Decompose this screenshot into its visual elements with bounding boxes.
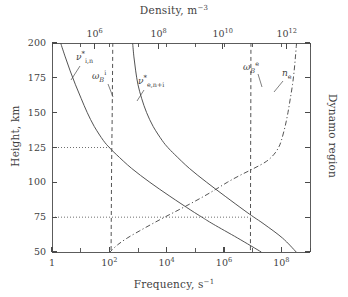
omega-B-i-label: ωBi	[92, 71, 106, 81]
guide-lines	[52, 148, 251, 218]
top-tick-label-3: 1012	[267, 28, 307, 39]
left-tick-label-6: 200	[0, 37, 46, 48]
left-tick-label-4: 150	[0, 107, 46, 118]
n-e-label: ne	[282, 68, 292, 78]
left-tick-label-3: 125	[0, 142, 46, 153]
left-tick-label-2: 100	[0, 176, 46, 187]
curve-nu_i_n	[61, 43, 262, 252]
bottom-tick-label-3: 106	[204, 257, 244, 268]
curve-omega_B_i	[111, 43, 113, 252]
plot-canvas	[0, 0, 348, 297]
left-tick-label-5: 175	[0, 72, 46, 83]
bottom-tick-label-1: 102	[89, 257, 129, 268]
top-tick-label-1: 108	[139, 28, 179, 39]
bottom-tick-label-2: 104	[147, 257, 187, 268]
axis-ticks	[52, 43, 310, 252]
top-tick-label-0: 106	[75, 28, 115, 39]
bottom-tick-label-0: 1	[32, 257, 72, 268]
left-tick-label-1: 75	[0, 211, 46, 222]
bottom-tick-label-4: 108	[261, 257, 301, 268]
nu-i-n-label: ν*i,n	[76, 52, 93, 62]
curve-n_e	[110, 43, 297, 252]
ionosphere-frequency-height-figure: Density, m−3 Frequency, s−1 Height, km D…	[0, 0, 348, 297]
nu-e-n-i-label: ν*e,n+i	[138, 76, 164, 86]
top-tick-label-2: 1010	[203, 28, 243, 39]
left-tick-label-0: 50	[0, 246, 46, 257]
omega-B-e-label: ωBe	[243, 62, 259, 72]
plot-frame	[52, 43, 310, 252]
